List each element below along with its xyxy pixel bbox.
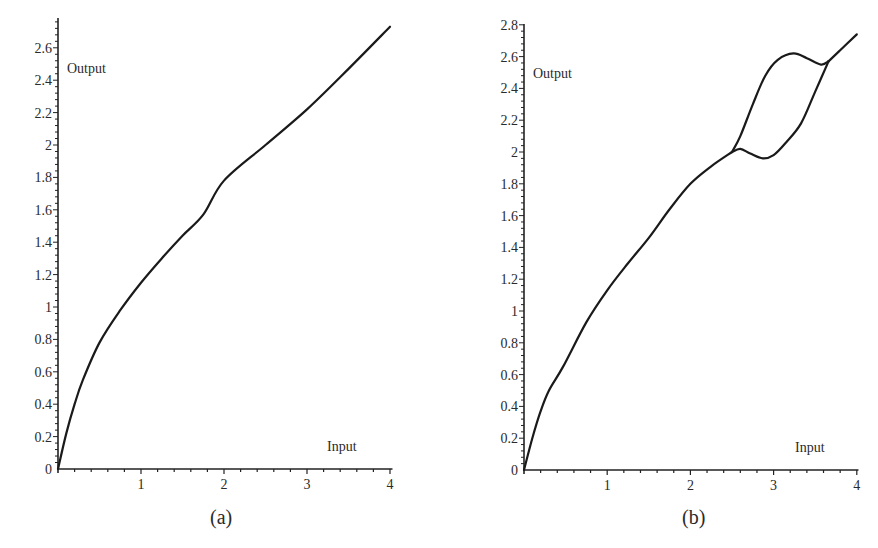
y-tick-label: 0.4 xyxy=(35,397,53,412)
y-tick-label: 0.2 xyxy=(501,431,519,446)
x-tick-label: 2 xyxy=(221,477,228,492)
data-line xyxy=(58,27,390,469)
data-line xyxy=(732,61,829,158)
y-tick-label: 1 xyxy=(45,300,52,315)
y-tick-label: 0.6 xyxy=(501,368,519,383)
y-tick-label: 1 xyxy=(511,304,518,319)
x-tick-label: 1 xyxy=(138,477,145,492)
y-tick-label: 2.2 xyxy=(35,106,53,121)
chart-a: 123400.20.40.60.811.21.41.61.822.22.42.6… xyxy=(0,0,439,548)
x-axis-label: Input xyxy=(327,439,357,454)
y-tick-label: 0 xyxy=(511,463,518,478)
y-tick-label: 1.4 xyxy=(35,235,53,250)
y-tick-label: 1.8 xyxy=(501,177,519,192)
y-axis-label: Output xyxy=(533,66,572,81)
y-tick-label: 1.2 xyxy=(501,272,519,287)
x-tick-label: 2 xyxy=(687,478,694,493)
y-tick-label: 0 xyxy=(45,462,52,477)
x-tick-label: 1 xyxy=(604,478,611,493)
y-tick-label: 2.2 xyxy=(501,113,519,128)
y-tick-label: 2.6 xyxy=(35,41,53,56)
caption-b: (b) xyxy=(682,506,705,529)
y-tick-label: 1.4 xyxy=(501,240,519,255)
y-tick-label: 1.6 xyxy=(501,209,519,224)
y-tick-label: 0.6 xyxy=(35,365,53,380)
x-tick-label: 3 xyxy=(770,478,777,493)
x-axis-label: Input xyxy=(795,440,825,455)
x-tick-label: 4 xyxy=(387,477,394,492)
y-tick-label: 0.8 xyxy=(501,336,519,351)
y-tick-label: 0.8 xyxy=(35,332,53,347)
y-axis-label: Output xyxy=(67,61,106,76)
y-tick-label: 0.2 xyxy=(35,430,53,445)
y-tick-label: 1.6 xyxy=(35,203,53,218)
y-tick-label: 1.2 xyxy=(35,268,53,283)
y-tick-label: 2.4 xyxy=(35,73,53,88)
y-tick-label: 2.6 xyxy=(501,50,519,65)
y-tick-label: 2.4 xyxy=(501,81,519,96)
y-tick-label: 2.8 xyxy=(501,18,519,33)
chart-b: 123400.20.40.60.811.21.41.61.822.22.42.6… xyxy=(439,0,878,548)
data-line xyxy=(829,34,857,61)
y-tick-label: 2 xyxy=(511,145,518,160)
data-line xyxy=(524,152,732,470)
y-tick-label: 2 xyxy=(45,138,52,153)
x-tick-label: 3 xyxy=(304,477,311,492)
caption-a: (a) xyxy=(210,506,232,529)
y-tick-label: 1.8 xyxy=(35,170,53,185)
x-tick-label: 4 xyxy=(853,478,860,493)
y-tick-label: 0.4 xyxy=(501,399,519,414)
data-line xyxy=(732,53,829,152)
